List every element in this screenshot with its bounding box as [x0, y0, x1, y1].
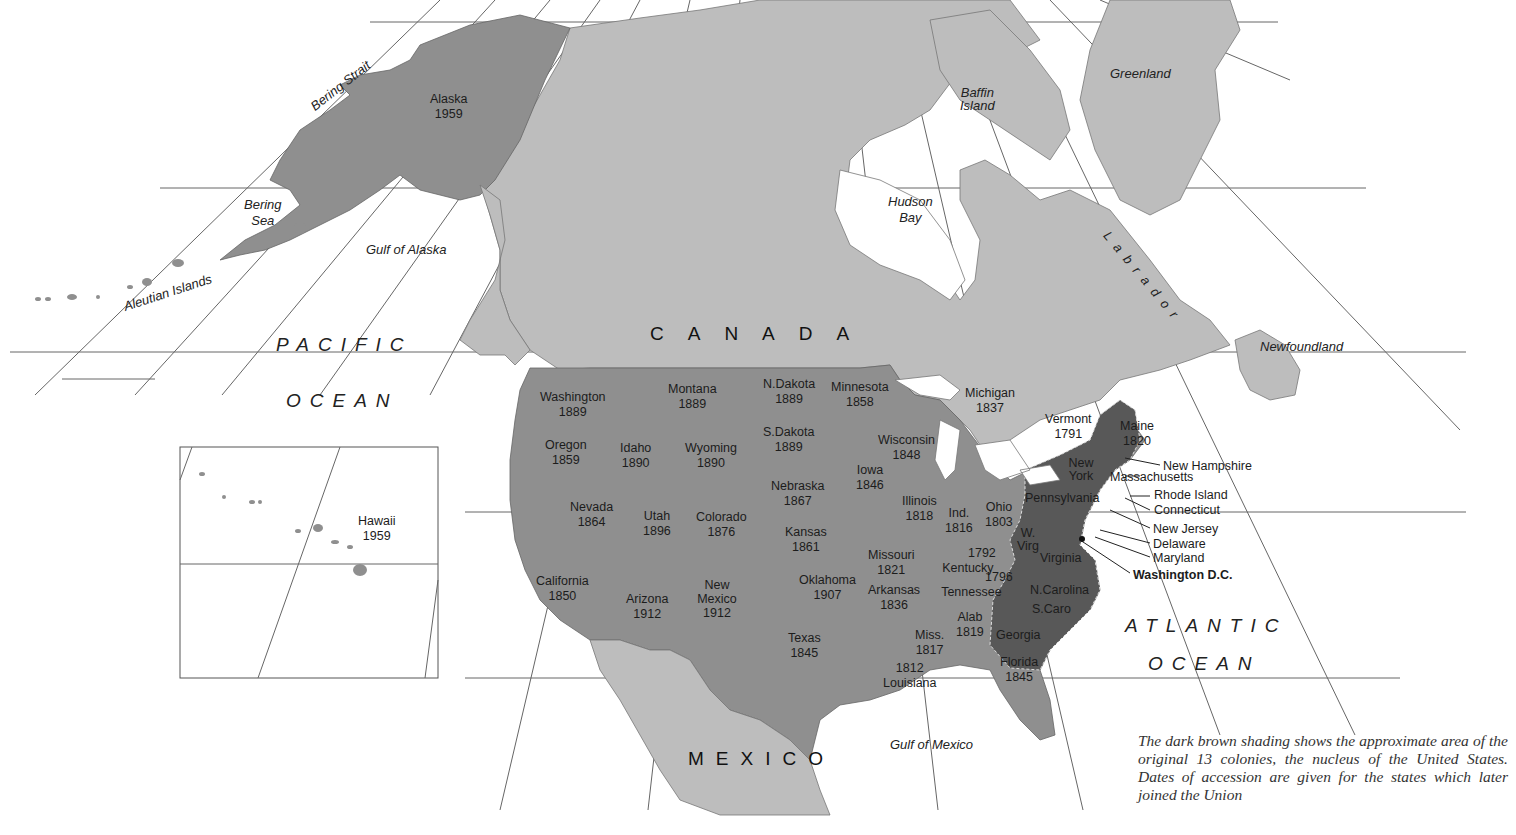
- state-label-tennessee: 1796Tennessee: [930, 570, 1013, 600]
- state-label-s-dakota: S.Dakota1889: [763, 425, 814, 455]
- state-label-louisiana: 1812Louisiana: [883, 661, 937, 691]
- state-year: 1796: [930, 570, 1013, 585]
- state-name: Alab: [956, 610, 984, 625]
- state-name: Florida: [1000, 655, 1038, 670]
- label-greenland: Greenland: [1110, 66, 1171, 82]
- state-year: 1859: [545, 453, 587, 468]
- state-label-utah: Utah1896: [643, 509, 671, 539]
- state-label-oklahoma: Oklahoma1907: [799, 573, 856, 603]
- state-year: 1889: [668, 397, 717, 412]
- state-label-florida: Florida1845: [1000, 655, 1038, 685]
- state-name: Washington: [540, 390, 606, 405]
- state-name: Louisiana: [883, 676, 937, 691]
- callout-washington-dc: Washington D.C.: [1133, 568, 1233, 582]
- state-year: 1818: [902, 509, 937, 524]
- state-year: 1836: [868, 598, 920, 613]
- state-year: 1848: [878, 448, 935, 463]
- state-year: 1792: [940, 546, 996, 561]
- state-label-arizona: Arizona1912: [626, 592, 668, 622]
- state-label-maine: Maine1820: [1120, 419, 1154, 449]
- state-year: 1846: [856, 478, 884, 493]
- state-year: 1816: [945, 521, 973, 536]
- state-name: N.Dakota: [763, 377, 815, 392]
- label-hudson-bay-line2: Bay: [888, 210, 933, 226]
- state-name: Vermont: [1045, 412, 1092, 427]
- state-year: 1907: [799, 588, 856, 603]
- state-label-california: California1850: [536, 574, 589, 604]
- state-label-arkansas: Arkansas1836: [868, 583, 920, 613]
- state-label-missouri: Missouri1821: [868, 548, 915, 578]
- label-baffin-island: BaffinIsland: [960, 86, 995, 112]
- colony-label-north-carolina: N.Carolina: [1030, 583, 1089, 598]
- state-year: 1812: [883, 661, 937, 676]
- washington-dc-marker: [1079, 536, 1085, 542]
- ocean-label-atlantic-1: ATLANTIC: [1125, 615, 1287, 637]
- state-year: 1817: [915, 643, 944, 658]
- state-year: 1861: [785, 540, 827, 555]
- country-label-mexico: MEXICO: [688, 748, 835, 770]
- state-year: 1912: [697, 606, 737, 620]
- callout-rhode-island: Rhode Island: [1154, 488, 1228, 502]
- label-bering-sea: BeringSea: [244, 197, 282, 229]
- state-name: New Mexico: [697, 578, 737, 606]
- state-year: 1889: [763, 440, 814, 455]
- state-year: 1837: [965, 401, 1015, 416]
- state-year: 1845: [1000, 670, 1038, 685]
- state-name: Missouri: [868, 548, 915, 563]
- state-label-texas: Texas1845: [788, 631, 821, 661]
- state-label-iowa: Iowa1846: [856, 463, 884, 493]
- colony-label-virginia: Virginia: [1040, 551, 1081, 566]
- state-label-michigan: Michigan1837: [965, 386, 1015, 416]
- callout-connecticut: Connecticut: [1154, 503, 1220, 517]
- callout-new-jersey: New Jersey: [1153, 522, 1218, 536]
- state-name: Tennessee: [930, 585, 1013, 600]
- state-name: Arizona: [626, 592, 668, 607]
- state-year: 1912: [626, 607, 668, 622]
- state-label-minnesota: Minnesota1858: [831, 380, 889, 410]
- state-year: 1889: [540, 405, 606, 420]
- colony-label-new-york: New York: [1066, 457, 1096, 483]
- state-label-ohio: Ohio1803: [985, 500, 1013, 530]
- label-bering-sea-line2: Sea: [244, 213, 282, 229]
- state-name: Oklahoma: [799, 573, 856, 588]
- state-name: Kansas: [785, 525, 827, 540]
- state-name: Texas: [788, 631, 821, 646]
- state-name: Minnesota: [831, 380, 889, 395]
- state-year: 1864: [570, 515, 613, 530]
- state-year: 1858: [831, 395, 889, 410]
- label-gulf-of-alaska: Gulf of Alaska: [366, 242, 446, 258]
- state-year: 1959: [358, 529, 396, 544]
- callout-delaware: Delaware: [1153, 537, 1206, 551]
- state-label-montana: Montana1889: [668, 382, 717, 412]
- ocean-label-pacific-2: OCEAN: [286, 390, 399, 412]
- state-label-new-mexico: New Mexico1912: [697, 578, 737, 620]
- state-label-nebraska: Nebraska1867: [771, 479, 825, 509]
- state-name: Montana: [668, 382, 717, 397]
- state-name: Oregon: [545, 438, 587, 453]
- state-label-mississippi: Miss.1817: [915, 628, 944, 658]
- label-bering-sea-line1: Bering: [244, 197, 282, 213]
- state-name: Utah: [643, 509, 671, 524]
- state-year: 1803: [985, 515, 1013, 530]
- hawaii-inset-frame: [180, 447, 438, 678]
- state-name: S.Dakota: [763, 425, 814, 440]
- state-name: Idaho: [620, 441, 651, 456]
- state-name: Wyoming: [685, 441, 737, 456]
- state-year: 1890: [620, 456, 651, 471]
- state-name: Michigan: [965, 386, 1015, 401]
- state-label-colorado: Colorado1876: [696, 510, 747, 540]
- colony-label-georgia: Georgia: [996, 628, 1040, 643]
- state-name: Illinois: [902, 494, 937, 509]
- country-label-canada: CANADA: [650, 323, 873, 345]
- state-label-alaska: Alaska1959: [430, 92, 468, 122]
- label-gulf-of-mexico: Gulf of Mexico: [890, 737, 973, 753]
- state-year: 1889: [763, 392, 815, 407]
- state-label-vermont: Vermont1791: [1045, 412, 1092, 442]
- baffin-island-landmass: [930, 10, 1070, 160]
- state-year: 1791: [1045, 427, 1092, 442]
- state-name: Hawaii: [358, 514, 396, 529]
- state-label-nevada: Nevada1864: [570, 500, 613, 530]
- state-year: 1867: [771, 494, 825, 509]
- state-name: Ohio: [985, 500, 1013, 515]
- label-hudson-bay: HudsonBay: [888, 194, 933, 226]
